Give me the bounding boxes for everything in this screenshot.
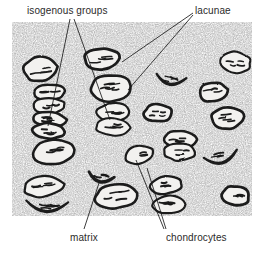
- cartilage-diagram: isogenous groups lacunae matrix chondroc…: [0, 0, 264, 253]
- lacuna-outline: [144, 104, 172, 121]
- chondrocyte: [144, 104, 172, 121]
- diagram-canvas: [0, 0, 264, 253]
- label-matrix: matrix: [70, 232, 98, 243]
- label-isogenous-groups: isogenous groups: [27, 5, 108, 16]
- label-chondrocytes: chondrocytes: [166, 232, 227, 243]
- lacuna-outline: [164, 143, 195, 161]
- label-lacunae: lacunae: [195, 5, 231, 16]
- chondrocyte: [164, 143, 195, 161]
